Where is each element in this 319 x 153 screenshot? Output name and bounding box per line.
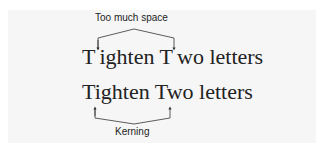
bottom-bracket-arrow-icon xyxy=(95,108,170,124)
annotation-arrows xyxy=(0,0,319,153)
top-bracket-arrow-icon xyxy=(98,29,174,49)
